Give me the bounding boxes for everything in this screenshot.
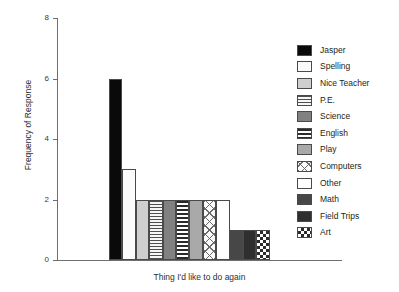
legend-item-art: Art (297, 225, 397, 242)
legend-item-label: Spelling (320, 62, 350, 71)
legend-swatch-icon (297, 78, 312, 89)
legend-item-nice-teacher: Nice Teacher (297, 75, 397, 92)
legend-item-label: English (320, 129, 348, 138)
bar-other (216, 200, 229, 261)
y-tick-mark (53, 260, 57, 261)
legend-item-label: Other (320, 179, 341, 188)
legend-item-jasper: Jasper (297, 42, 397, 59)
legend-item-label: Art (320, 228, 331, 237)
y-tick-label: 0 (0, 256, 49, 264)
legend-item-spelling: Spelling (297, 59, 397, 76)
legend-item-play: Play (297, 142, 397, 159)
legend-swatch-icon (297, 61, 312, 72)
legend-item-label: Play (320, 145, 337, 154)
x-axis-title: Thing I'd like to do again (57, 272, 342, 282)
legend-swatch-icon (297, 194, 312, 205)
legend-item-label: Nice Teacher (320, 79, 369, 88)
legend-item-field-trips: Field Trips (297, 208, 397, 225)
bar-computers (203, 200, 216, 261)
legend-item-label: Jasper (320, 46, 346, 55)
legend-item-english: English (297, 125, 397, 142)
legend-item-label: Math (320, 195, 339, 204)
legend-swatch-icon (297, 211, 312, 222)
bar-english (176, 200, 189, 261)
y-tick-label: 8 (0, 14, 49, 22)
bar-field-trips (243, 230, 256, 260)
legend-item-label: Field Trips (320, 212, 359, 221)
legend-item-science: Science (297, 108, 397, 125)
legend-swatch-icon (297, 45, 312, 56)
legend-swatch-icon (297, 144, 312, 155)
legend-swatch-icon (297, 95, 312, 106)
bar-chart-figure: 86420 Frequency of Response Thing I'd li… (0, 0, 399, 292)
legend-swatch-icon (297, 128, 312, 139)
bar-math (230, 230, 243, 260)
legend-swatch-icon (297, 178, 312, 189)
legend-item-math: Math (297, 191, 397, 208)
legend-item-label: P.E. (320, 96, 335, 105)
bar-p-e (149, 200, 162, 261)
x-axis-line (57, 260, 342, 261)
bar-art (256, 230, 269, 260)
bar-spelling (122, 169, 135, 260)
legend-item-other: Other (297, 175, 397, 192)
bar-science (163, 200, 176, 261)
y-axis-title: Frequency of Response (23, 45, 33, 205)
legend-item-p-e: P.E. (297, 92, 397, 109)
bar-jasper (109, 79, 122, 261)
bar-nice-teacher (136, 200, 149, 261)
legend-item-computers: Computers (297, 158, 397, 175)
legend-item-label: Science (320, 112, 350, 121)
bar-play (189, 200, 202, 261)
legend-swatch-icon (297, 161, 312, 172)
chart-legend: JasperSpellingNice TeacherP.E.ScienceEng… (297, 42, 397, 241)
legend-swatch-icon (297, 227, 312, 238)
legend-item-label: Computers (320, 162, 362, 171)
legend-swatch-icon (297, 111, 312, 122)
